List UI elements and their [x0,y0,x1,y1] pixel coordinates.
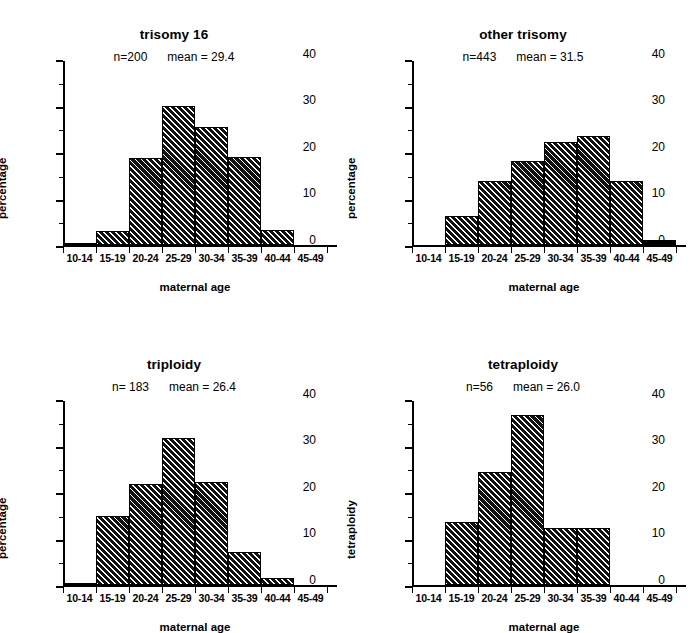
x-axis-line [412,245,686,247]
y-axis-tick [405,200,412,202]
bar [577,136,610,245]
y-axis-tick [56,60,63,62]
x-axis-tick-label: 25-29 [162,592,195,604]
x-axis-tick-label: 45-49 [643,252,676,264]
x-axis-tick-label: 10-14 [412,252,445,264]
plot-area: 010203040 [63,401,327,587]
bar [511,415,544,585]
bar-slot [511,401,544,585]
bar [610,181,643,245]
bar [162,438,195,585]
plot-area: 010203040 [412,401,676,587]
y-axis-tick-label: 40 [303,47,316,61]
chart-panel-tetraploidy: tetraploidy n=56 mean = 26.0 tetraploidy… [349,316,697,632]
x-axis-tick [676,247,677,253]
bar-slot [63,61,96,245]
x-axis-tick-labels: 10-1415-1920-2425-2930-3435-3940-4445-49 [63,592,327,604]
x-axis-tick-label: 10-14 [63,252,96,264]
x-axis-title: maternal age [63,281,327,293]
x-axis-title: maternal age [63,621,327,633]
bar-slot [294,401,327,585]
x-axis-tick-label: 40-44 [261,592,294,604]
bar [195,127,228,245]
x-axis-tick-label: 25-29 [511,592,544,604]
bar [63,583,96,585]
y-axis-title: percentage [0,498,8,559]
bar [162,106,195,245]
bar-slot [643,61,676,245]
x-axis-tick-labels: 10-1415-1920-2425-2930-3435-3940-4445-49 [412,252,676,264]
bar-slot [129,61,162,245]
bar [643,240,676,245]
bar-slot [261,61,294,245]
x-axis-tick-label: 45-49 [294,252,327,264]
y-axis-tick [405,540,412,542]
x-axis-title: maternal age [412,621,676,633]
bar-slot [610,401,643,585]
y-axis-tick [56,586,63,588]
y-axis-tick [56,400,63,402]
bar [129,484,162,585]
bar [228,552,261,585]
bar-series [412,61,676,245]
bar-slot [294,61,327,245]
chart-panel-trisomy-16: trisomy 16 n=200 mean = 29.4 percentage … [0,0,348,316]
x-axis-tick-label: 15-19 [96,252,129,264]
bar-slot [445,61,478,245]
y-axis-tick [405,60,412,62]
x-axis-tick-label: 25-29 [511,252,544,264]
bar [96,516,129,585]
x-axis-line [63,245,337,247]
x-axis-tick [327,587,328,593]
chart-subtitle: n=56 mean = 26.0 [349,380,697,394]
x-axis-tick-label: 45-49 [294,592,327,604]
bar-slot [412,401,445,585]
y-axis-tick [405,447,412,449]
y-axis-title: percentage [0,158,8,219]
bar [261,578,294,585]
bar [544,528,577,585]
x-axis-tick-label: 25-29 [162,252,195,264]
y-axis-tick [405,586,412,588]
bar-slot [544,61,577,245]
x-axis-tick-label: 40-44 [610,592,643,604]
bar [195,482,228,586]
bar [478,472,511,585]
x-axis-tick-label: 35-39 [577,592,610,604]
bar-series [412,401,676,585]
chart-subtitle: n= 183 mean = 26.4 [0,380,348,394]
bar-slot [577,401,610,585]
x-axis-tick-label: 35-39 [228,252,261,264]
plot-area: 010203040 [63,61,327,247]
x-axis-tick-label: 35-39 [577,252,610,264]
x-axis-tick-label: 30-34 [544,592,577,604]
bar-slot [228,401,261,585]
bar-slot [162,401,195,585]
bar-slot [412,61,445,245]
x-axis-tick-label: 30-34 [544,252,577,264]
x-axis-tick-label: 40-44 [261,252,294,264]
x-axis-tick [676,587,677,593]
chart-title: trisomy 16 [0,27,348,42]
bar-slot [610,61,643,245]
x-axis-tick-labels: 10-1415-1920-2425-2930-3435-3940-4445-49 [412,592,676,604]
bar [544,142,577,246]
y-axis-tick [56,447,63,449]
y-axis-tick [405,107,412,109]
bar-slot [445,401,478,585]
bar [445,216,478,245]
bar-slot [96,401,129,585]
bar [478,181,511,245]
y-axis-tick [56,540,63,542]
y-axis-tick [56,493,63,495]
y-axis-tick [405,400,412,402]
bar-slot [195,61,228,245]
y-axis-tick-label: 40 [652,47,665,61]
x-axis-tick-label: 15-19 [96,592,129,604]
x-axis-tick-label: 20-24 [478,252,511,264]
x-axis-line [412,585,686,587]
x-axis-title: maternal age [412,281,676,293]
y-axis-tick [56,153,63,155]
y-axis-title: percentage [345,158,357,219]
